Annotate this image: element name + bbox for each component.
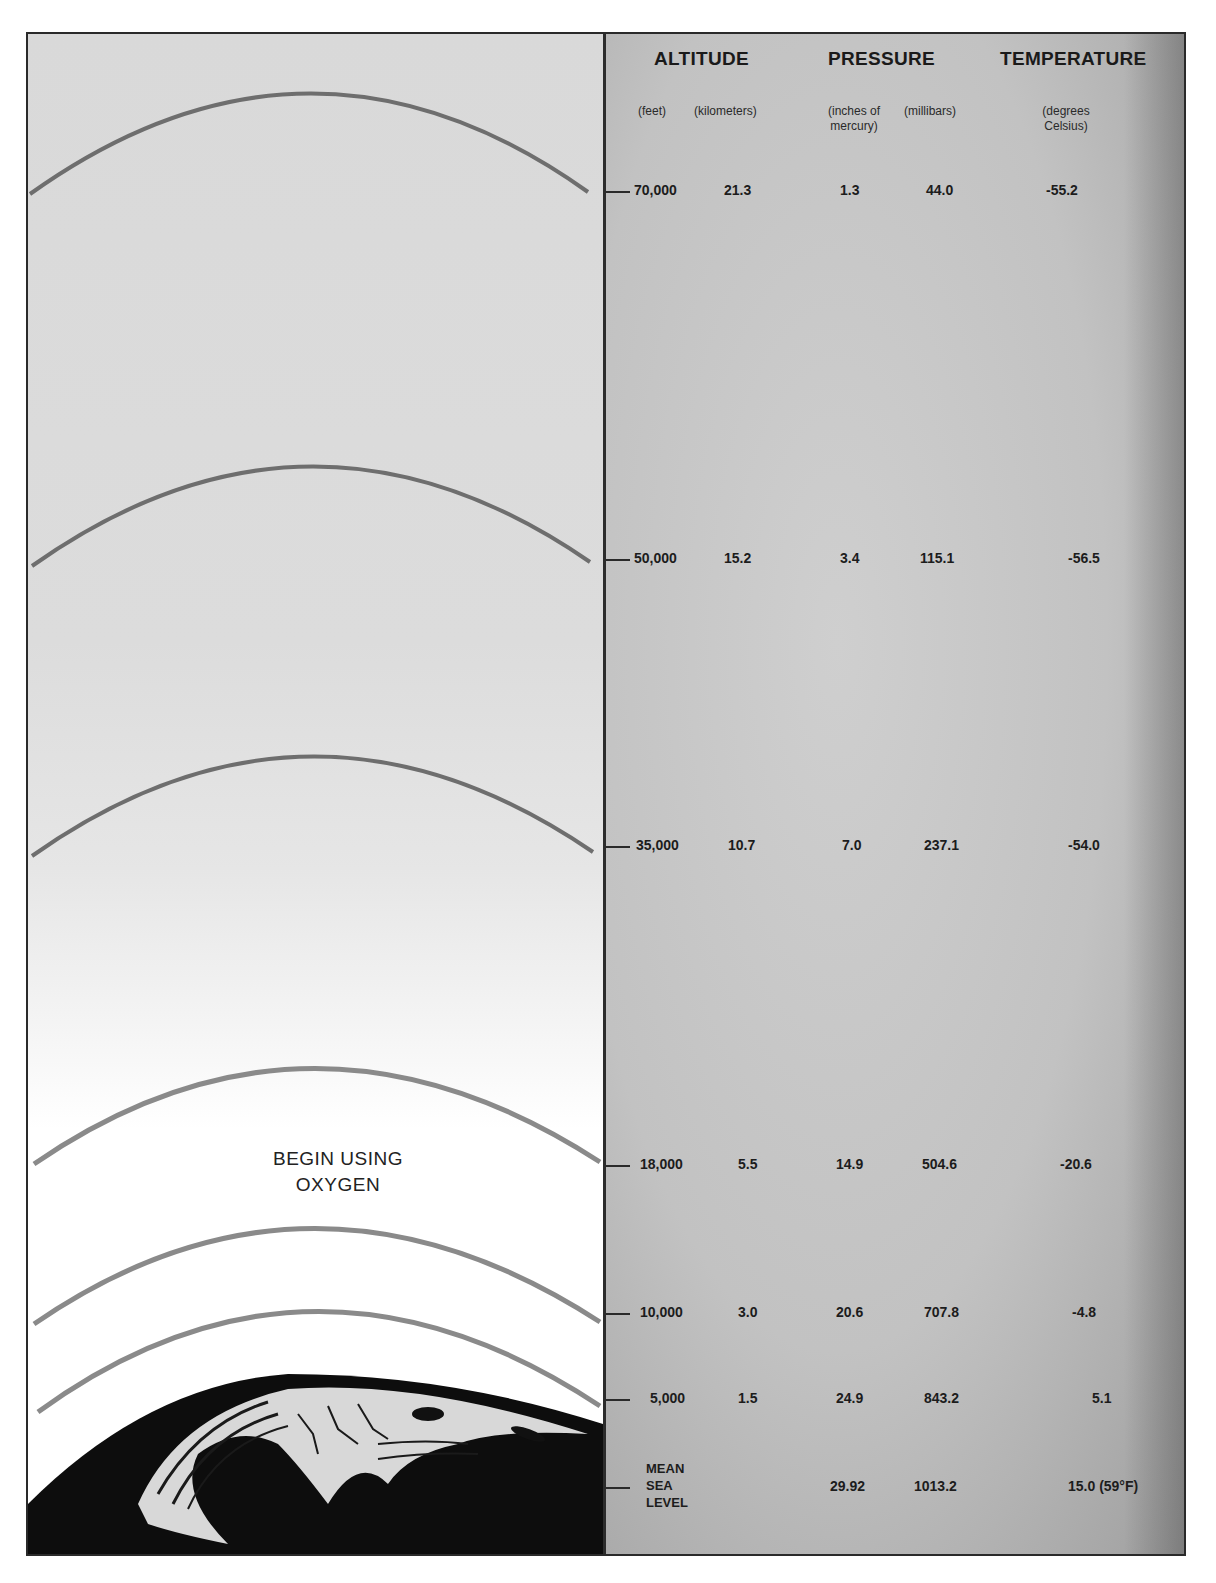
table-row: 10,000 3.0 20.6 707.8 -4.8 [606, 1304, 1184, 1324]
oxygen-label-line2: OXYGEN [286, 1172, 390, 1198]
atmosphere-illustration: BEGIN USING OXYGEN [28, 34, 603, 1554]
cell-feet: 70,000 [634, 182, 677, 198]
altitude-tick [606, 1399, 630, 1401]
oxygen-label-line1: BEGIN USING [208, 1146, 468, 1172]
cell-temp: -4.8 [1072, 1304, 1096, 1320]
earth-globe-icon [28, 1374, 603, 1554]
cell-inhg: 14.9 [836, 1156, 863, 1172]
cell-km: 1.5 [738, 1390, 757, 1406]
cell-mb: 504.6 [922, 1156, 957, 1172]
cell-feet: 10,000 [640, 1304, 683, 1320]
subheader-kilometers: (kilometers) [694, 104, 757, 119]
cell-inhg: 1.3 [840, 182, 859, 198]
atmosphere-data-table: ALTITUDE PRESSURE TEMPERATURE (feet) (ki… [603, 34, 1184, 1554]
subheader-degrees-line1: (degrees [1030, 104, 1102, 119]
cell-km: 21.3 [724, 182, 751, 198]
table-row: 18,000 5.5 14.9 504.6 -20.6 [606, 1156, 1184, 1176]
cell-temp: -56.5 [1068, 550, 1100, 566]
cell-km: 3.0 [738, 1304, 757, 1320]
subheader-degrees-celsius: (degrees Celsius) [1030, 104, 1102, 134]
cell-inhg: 3.4 [840, 550, 859, 566]
altitude-tick [606, 846, 630, 848]
altitude-tick [606, 191, 630, 193]
table-row: 50,000 15.2 3.4 115.1 -56.5 [606, 550, 1184, 570]
cell-inhg: 20.6 [836, 1304, 863, 1320]
cell-feet: 18,000 [640, 1156, 683, 1172]
cell-temp: 5.1 [1092, 1390, 1111, 1406]
cell-mb: 237.1 [924, 837, 959, 853]
altitude-tick [606, 1313, 630, 1315]
subheader-inches-line1: (inches of [810, 104, 898, 119]
cell-inhg: 24.9 [836, 1390, 863, 1406]
cell-feet: 35,000 [636, 837, 679, 853]
header-pressure: PRESSURE [828, 48, 935, 70]
subheader-millibars: (millibars) [904, 104, 956, 119]
arc-50000 [32, 466, 590, 566]
cell-mb: 843.2 [924, 1390, 959, 1406]
cell-feet: 5,000 [650, 1390, 685, 1406]
altitude-tick [606, 1487, 630, 1489]
subheader-degrees-line2: Celsius) [1030, 119, 1102, 134]
cell-mb: 707.8 [924, 1304, 959, 1320]
msl-line1: MEAN [646, 1460, 688, 1477]
arc-35000 [32, 756, 593, 856]
cell-km: 15.2 [724, 550, 751, 566]
arc-70000 [30, 93, 588, 194]
cell-km: 10.7 [728, 837, 755, 853]
cell-temp: -54.0 [1068, 837, 1100, 853]
altitude-tick [606, 1165, 630, 1167]
cell-inhg: 29.92 [830, 1478, 865, 1494]
header-temperature: TEMPERATURE [1000, 48, 1147, 70]
cell-temp: -55.2 [1046, 182, 1078, 198]
cell-temp: 15.0 (59°F) [1068, 1478, 1138, 1494]
table-row: 70,000 21.3 1.3 44.0 -55.2 [606, 182, 1184, 202]
subheader-inches-line2: mercury) [810, 119, 898, 134]
cell-feet: 50,000 [634, 550, 677, 566]
subheader-feet: (feet) [638, 104, 666, 119]
mean-sea-level-label: MEAN SEA LEVEL [646, 1460, 688, 1511]
cell-temp: -20.6 [1060, 1156, 1092, 1172]
table-row: 35,000 10.7 7.0 237.1 -54.0 [606, 837, 1184, 857]
table-row: 5,000 1.5 24.9 843.2 5.1 [606, 1390, 1184, 1410]
cell-mb: 1013.2 [914, 1478, 957, 1494]
msl-line3: LEVEL [646, 1494, 688, 1511]
header-altitude: ALTITUDE [654, 48, 749, 70]
msl-line2: SEA [646, 1477, 688, 1494]
begin-using-oxygen-label: BEGIN USING OXYGEN [208, 1146, 468, 1198]
altitude-tick [606, 559, 630, 561]
altitude-arcs [28, 34, 603, 1554]
cell-inhg: 7.0 [842, 837, 861, 853]
cell-km: 5.5 [738, 1156, 757, 1172]
subheader-inches-mercury: (inches of mercury) [810, 104, 898, 134]
cell-mb: 44.0 [926, 182, 953, 198]
cell-mb: 115.1 [920, 550, 954, 566]
